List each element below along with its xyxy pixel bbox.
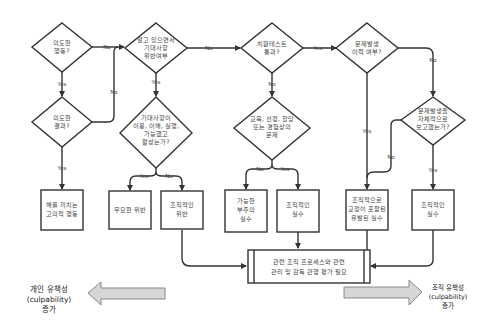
svg-text:관련 조직 프로세스와 관련: 관련 조직 프로세스와 관련: [273, 258, 345, 266]
svg-text:실수: 실수: [292, 210, 304, 218]
decision-intended-action: 의도한 행동?: [32, 23, 92, 72]
decision-history-of-problems: 문제발생 이력 여부?: [336, 23, 398, 73]
svg-text:이력 여부?: 이력 여부?: [352, 48, 381, 56]
edge-label-d1-no: No: [103, 44, 111, 50]
decision-expectations-available: 기대사항이 이용, 이해, 실행, 가능했고 활성는가?: [120, 97, 192, 168]
svg-text:조직적인: 조직적인: [421, 201, 445, 209]
label-individual-culpability: 개인 유책성 (culpability) 증가: [27, 284, 72, 314]
edge-d8-o6: [367, 120, 402, 178]
outcome-reckless-violation: 무모한 위반: [109, 191, 151, 229]
svg-text:가능했고: 가능했고: [144, 130, 168, 138]
outcome-systemically-induced-error: 조직적으로 교정이 포함된 유발된 실수: [346, 190, 388, 230]
svg-text:통과?: 통과?: [264, 48, 279, 56]
svg-text:이용, 이해, 실행,: 이용, 이해, 실행,: [133, 122, 179, 130]
svg-text:조직적인: 조직적인: [286, 201, 310, 209]
svg-text:교육, 선정, 할당: 교육, 선정, 할당: [250, 115, 294, 123]
decision-training-issue: 교육, 선정, 할당 또는 경험상의 문제: [234, 97, 310, 160]
svg-text:의도한: 의도한: [53, 39, 71, 47]
svg-text:실수: 실수: [427, 210, 439, 218]
svg-text:조직적인: 조직적인: [170, 201, 194, 209]
outcome-systemic-error-reported: 조직적인 실수: [412, 190, 454, 230]
svg-text:유발된 실수: 유발된 실수: [351, 214, 383, 222]
svg-text:관리 및 감독 관행 평가 필요: 관리 및 감독 관행 평가 필요: [271, 268, 347, 276]
svg-text:알고 있으면서: 알고 있으면서: [137, 36, 175, 44]
edge-label-d8-no: No: [387, 154, 395, 160]
svg-text:증가: 증가: [442, 301, 454, 310]
decision-intended-result: 의도한 결과?: [32, 97, 92, 147]
edge-label-d7-no: No: [429, 57, 437, 63]
edge-d7-d8: [398, 48, 433, 96]
right-arrow-organizational-culpability: [344, 280, 422, 305]
svg-text:가능한: 가능한: [237, 197, 255, 205]
outcome-possible-negligent-error: 가능한 부주의 실수: [225, 190, 267, 232]
svg-text:(culpability): (culpability): [27, 295, 72, 304]
svg-text:행동?: 행동?: [54, 47, 69, 54]
edge-label-d1-yes: Yes: [57, 81, 67, 87]
edge-label-d3-yes: Yes: [151, 79, 161, 85]
process-evaluate-org-practices: 관련 조직 프로세스와 관련 관리 및 감독 관행 평가 필요: [248, 250, 370, 283]
decision-self-reported: 문제발생을 자체적으로 보고했는가?: [401, 97, 465, 145]
edge-label-d6-no: No: [256, 166, 264, 172]
svg-text:무모한 위반: 무모한 위반: [114, 206, 146, 214]
edge-label-d6-yes: Yes: [280, 166, 290, 172]
svg-text:조직 유책성: 조직 유책성: [432, 283, 464, 292]
svg-text:치환테스트: 치환테스트: [257, 40, 287, 48]
svg-text:결과?: 결과?: [54, 122, 69, 130]
svg-text:기대사항: 기대사항: [144, 44, 168, 52]
left-arrow-individual-culpability: [88, 282, 165, 305]
edge-label-d5-no: No: [268, 81, 276, 87]
culpability-flowchart: Yes No No Yes No Yes Yes No Yes No No Ye…: [0, 0, 494, 332]
svg-text:활성는가?: 활성는가?: [142, 138, 169, 146]
svg-text:위반: 위반: [176, 210, 188, 218]
svg-text:자체적으로: 자체적으로: [418, 115, 448, 123]
edge-o3-process: [182, 230, 246, 266]
svg-text:문제: 문제: [266, 131, 278, 139]
edge-d4-o2: [130, 168, 156, 190]
edge-label-d3-no: No: [205, 45, 213, 51]
edge-d6-o4: [246, 160, 272, 189]
edge-label-d7-yes: Yes: [362, 128, 372, 134]
edge-label-d2-yes: Yes: [57, 165, 67, 171]
svg-text:부주의: 부주의: [237, 206, 255, 214]
outcome-malicious-act: 해를 끼치는 고의적 행동: [41, 190, 83, 230]
decision-substitution-test: 치환테스트 통과?: [241, 23, 303, 73]
svg-text:문제발생: 문제발생: [355, 40, 379, 48]
svg-text:기대사항이: 기대사항이: [141, 114, 171, 122]
edge-label-d4-no: No: [165, 173, 173, 179]
svg-text:또는 경험상의: 또는 경험상의: [253, 123, 291, 131]
edge-label-d5-yes: Yes: [313, 45, 323, 51]
svg-text:교정이 포함된: 교정이 포함된: [348, 205, 386, 213]
svg-text:해를 끼치는: 해를 끼치는: [46, 201, 78, 209]
svg-text:증가: 증가: [42, 305, 56, 314]
svg-text:실수: 실수: [240, 215, 252, 223]
svg-text:조직적으로: 조직적으로: [352, 196, 382, 204]
svg-text:개인 유책성: 개인 유책성: [30, 284, 67, 294]
edge-o7-process: [371, 230, 433, 266]
label-organizational-culpability: 조직 유책성 (culpability) 증가: [429, 283, 468, 310]
edge-label-d2-no: No: [110, 89, 118, 95]
edge-label-d8-yes: Yes: [428, 167, 438, 173]
svg-text:고의적 행동: 고의적 행동: [46, 210, 78, 218]
outcome-systemic-error: 조직적인 실수: [277, 190, 319, 232]
svg-text:의도한: 의도한: [53, 114, 71, 122]
svg-text:(culpability): (culpability): [429, 293, 468, 301]
svg-text:보고했는가?: 보고했는가?: [416, 123, 449, 131]
svg-text:문제발생을: 문제발생을: [418, 107, 448, 115]
svg-text:위반여부: 위반여부: [144, 52, 168, 60]
outcome-systemic-violation: 조직적인 위반: [161, 191, 203, 229]
edge-d2-d3: [92, 47, 118, 122]
decision-knowing-violation: 알고 있으면서 기대사항 위반여부: [125, 23, 187, 73]
edge-label-d4-yes: Yes: [139, 173, 149, 179]
